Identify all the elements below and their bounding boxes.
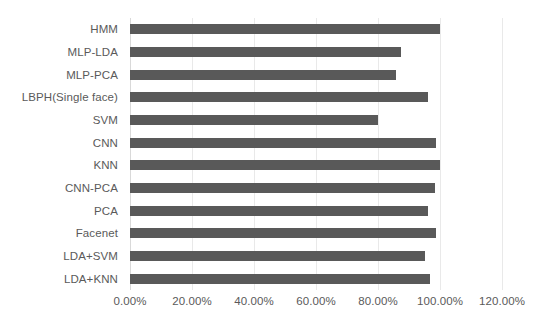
bar [130,115,378,125]
category-axis: HMMMLP-LDAMLP-PCALBPH(Single face)SVMCNN… [0,18,124,290]
category-label: MLP-PCA [0,69,118,81]
value-tick-label: 60.00% [296,294,336,308]
gridline-100 [440,18,441,290]
category-label: LDA+SVM [0,250,118,262]
gridline-20 [192,18,193,290]
bar [130,251,425,261]
category-label: LDA+KNN [0,273,118,285]
bar [130,160,440,170]
category-label: PCA [0,205,118,217]
bar-chart: HMMMLP-LDAMLP-PCALBPH(Single face)SVMCNN… [0,0,550,330]
bar [130,47,401,57]
bar [130,138,436,148]
category-label: KNN [0,159,118,171]
plot-area [130,18,502,290]
value-tick-label: 120.00% [479,294,525,308]
category-label: SVM [0,114,118,126]
gridline-120 [502,18,503,290]
gridline-60 [316,18,317,290]
category-label: LBPH(Single face) [0,91,118,103]
category-label: CNN [0,137,118,149]
gridline-0 [130,18,131,290]
bar [130,183,435,193]
value-tick-label: 80.00% [358,294,398,308]
value-tick-label: 100.00% [417,294,463,308]
bar [130,206,428,216]
category-label: Facenet [0,227,118,239]
bar [130,92,428,102]
category-label: MLP-LDA [0,46,118,58]
value-tick-label: 20.00% [172,294,212,308]
bar [130,228,436,238]
bar [130,274,430,284]
gridline-80 [378,18,379,290]
bar [130,70,396,80]
value-tick-label: 40.00% [234,294,274,308]
value-tick-label: 0.00% [113,294,146,308]
value-axis: 0.00%20.00%40.00%60.00%80.00%100.00%120.… [130,294,502,314]
bar [130,24,440,34]
category-label: HMM [0,23,118,35]
category-label: CNN-PCA [0,182,118,194]
gridline-40 [254,18,255,290]
